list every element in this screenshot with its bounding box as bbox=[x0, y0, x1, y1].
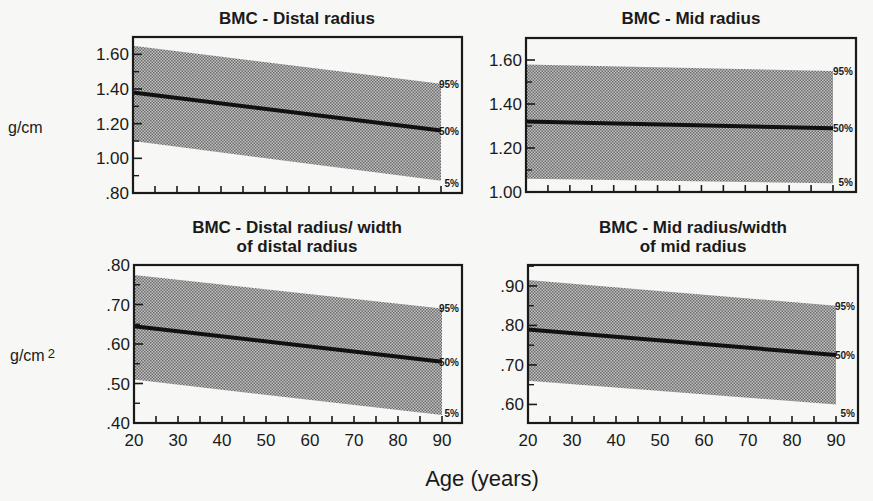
x-tick-label: 60 bbox=[301, 431, 320, 450]
y-tick-label: 1.60 bbox=[489, 51, 522, 70]
y-tick-label: .80 bbox=[500, 316, 524, 335]
y-tick-label: 1.00 bbox=[489, 183, 522, 202]
y-tick-label: .90 bbox=[500, 277, 524, 296]
percentile-label-95: 95% bbox=[835, 301, 855, 312]
panel-mid-radius: BMC - Mid radius 1.001.201.401.6095%50%5… bbox=[489, 9, 856, 202]
x-tick-label: 30 bbox=[563, 431, 582, 450]
title-line: of mid radius bbox=[640, 237, 747, 256]
y-tick-label: 1.40 bbox=[489, 95, 522, 114]
x-tick-label: 20 bbox=[125, 431, 144, 450]
x-tick-label: 50 bbox=[651, 431, 670, 450]
percentile-label-95: 95% bbox=[439, 303, 459, 314]
x-tick-label: 30 bbox=[169, 431, 188, 450]
percentile-label-95: 95% bbox=[833, 66, 853, 77]
unit-base: g/cm bbox=[10, 347, 45, 364]
y-tick-label: 1.60 bbox=[96, 45, 129, 64]
x-tick-label: 80 bbox=[389, 431, 408, 450]
percentile-label-50: 50% bbox=[439, 357, 459, 368]
y-tick-label: .50 bbox=[106, 375, 130, 394]
unit-superscript: 2 bbox=[48, 346, 55, 361]
x-tick-label: 90 bbox=[827, 431, 846, 450]
y-tick-label: 1.20 bbox=[96, 115, 129, 134]
panel-title: BMC - Distal radius bbox=[219, 9, 375, 28]
percentile-label-50: 50% bbox=[439, 126, 459, 137]
x-tick-label: 50 bbox=[257, 431, 276, 450]
x-axis-label: Age (years) bbox=[425, 466, 539, 491]
panel-distal-radius-per-width: BMC - Distal radius/ widthof distal radi… bbox=[106, 218, 462, 450]
title-line: BMC - Distal radius/ width bbox=[192, 218, 402, 237]
y-tick-label: .80 bbox=[105, 184, 129, 203]
percentile-label-5: 5% bbox=[445, 178, 460, 189]
title-line: of distal radius bbox=[237, 237, 358, 256]
x-tick-label: 20 bbox=[519, 431, 538, 450]
y-unit-label-top: g/cm bbox=[8, 119, 43, 136]
x-tick-label: 70 bbox=[739, 431, 758, 450]
percentile-label-5: 5% bbox=[445, 408, 460, 419]
y-tick-label: .60 bbox=[106, 335, 130, 354]
x-tick-label: 70 bbox=[345, 431, 364, 450]
y-tick-label: .70 bbox=[500, 356, 524, 375]
panel-title: BMC - Mid radius/widthof mid radius bbox=[599, 218, 787, 256]
y-tick-label: 1.20 bbox=[489, 139, 522, 158]
x-tick-label: 80 bbox=[783, 431, 802, 450]
y-tick-label: 1.00 bbox=[96, 149, 129, 168]
panel-mid-radius-per-width: BMC - Mid radius/widthof mid radius .60.… bbox=[500, 218, 858, 450]
percentile-label-5: 5% bbox=[839, 177, 854, 188]
title-line: BMC - Mid radius bbox=[622, 9, 761, 28]
title-line: BMC - Distal radius bbox=[219, 9, 375, 28]
panel-title: BMC - Distal radius/ widthof distal radi… bbox=[192, 218, 402, 256]
percentile-label-5: 5% bbox=[841, 408, 856, 419]
title-line: BMC - Mid radius/width bbox=[599, 218, 787, 237]
y-tick-label: .70 bbox=[106, 296, 130, 315]
bmc-percentile-figure: BMC - Distal radius .801.001.201.401.609… bbox=[0, 0, 873, 501]
percentile-label-50: 50% bbox=[835, 350, 855, 361]
percentile-label-50: 50% bbox=[833, 123, 853, 134]
x-tick-label: 40 bbox=[213, 431, 232, 450]
panel-distal-radius: BMC - Distal radius .801.001.201.401.609… bbox=[96, 9, 462, 203]
x-tick-label: 40 bbox=[607, 431, 626, 450]
y-unit-label-bottom: g/cm2 bbox=[10, 346, 55, 364]
y-tick-label: .60 bbox=[500, 395, 524, 414]
x-tick-label: 90 bbox=[433, 431, 452, 450]
percentile-label-95: 95% bbox=[439, 79, 459, 90]
y-tick-label: .80 bbox=[106, 256, 130, 275]
y-tick-label: 1.40 bbox=[96, 80, 129, 99]
panel-title: BMC - Mid radius bbox=[622, 9, 761, 28]
x-tick-label: 60 bbox=[695, 431, 714, 450]
